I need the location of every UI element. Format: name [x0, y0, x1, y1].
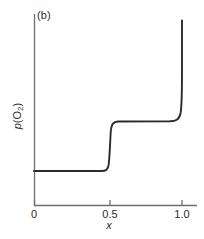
panel-label: (b)	[37, 9, 51, 21]
x-tick-label-1.0: 1.0	[167, 208, 197, 220]
x-tick-label-0.5: 0.5	[95, 208, 125, 220]
x-axis-label: x	[94, 219, 124, 231]
plot-background	[0, 0, 204, 239]
x-tick-label-0: 0	[24, 208, 44, 220]
plot-canvas	[0, 0, 204, 239]
figure-panel-b: (b) p(O2) x 0 0.5 1.0	[0, 0, 204, 239]
y-axis-label: p(O2)	[11, 86, 23, 146]
